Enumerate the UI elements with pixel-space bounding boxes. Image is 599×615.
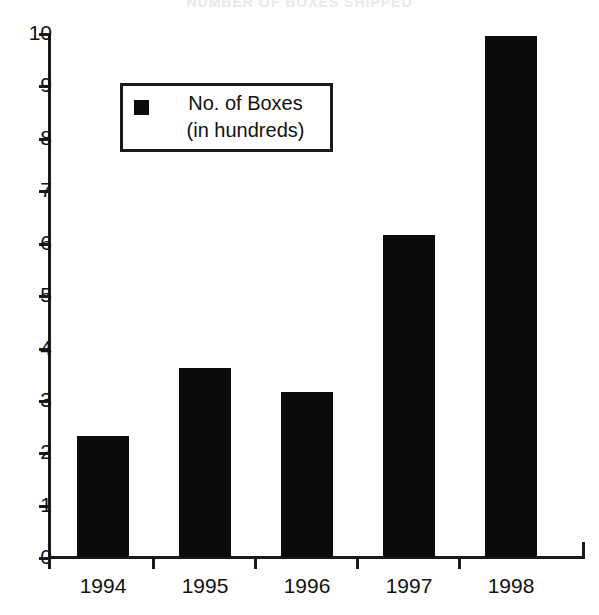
bar-1997 — [383, 235, 435, 557]
bar-chart-figure: NUMBER OF BOXES SHIPPED 10 9 8 7 6 5 — [0, 0, 599, 615]
legend-swatch-icon — [134, 100, 149, 115]
x-tick-mark — [48, 556, 51, 569]
bar-1996 — [281, 392, 333, 557]
legend-label-line-1: No. of Boxes — [163, 90, 328, 117]
y-tick-5: 5 — [0, 295, 52, 298]
y-tick-6: 6 — [0, 243, 52, 246]
x-tick-label-1998: 1998 — [460, 574, 562, 598]
x-tick-mark — [458, 556, 461, 569]
y-tick-label: 5 — [22, 284, 52, 305]
y-tick-label: 1 — [22, 494, 52, 515]
plot-area: 10 9 8 7 6 5 4 3 — [0, 0, 599, 615]
x-tick-mark — [152, 556, 155, 569]
legend-entry-label: No. of Boxes (in hundreds) — [163, 90, 328, 144]
bar-1998 — [485, 36, 537, 557]
y-tick-label: 8 — [22, 127, 52, 148]
y-tick-label: 10 — [22, 22, 52, 43]
y-tick-0: 0 — [0, 557, 52, 560]
y-tick-label: 2 — [22, 441, 52, 462]
y-tick-9: 9 — [0, 85, 52, 88]
x-tick-label-1997: 1997 — [358, 574, 460, 598]
y-tick-4: 4 — [0, 348, 52, 351]
bar-1995 — [179, 368, 231, 557]
legend-label-line-2: (in hundreds) — [163, 117, 328, 144]
y-tick-label: 7 — [22, 179, 52, 200]
y-tick-label: 9 — [22, 74, 52, 95]
x-tick-mark — [356, 556, 359, 569]
y-tick-3: 3 — [0, 400, 52, 403]
x-tick-mark — [254, 556, 257, 569]
x-tick-label-1996: 1996 — [256, 574, 358, 598]
y-tick-label: 4 — [22, 337, 52, 358]
bar-1994 — [77, 436, 129, 557]
y-tick-1: 1 — [0, 505, 52, 508]
y-tick-label: 3 — [22, 389, 52, 410]
x-tick-label-1994: 1994 — [52, 574, 154, 598]
y-tick-8: 8 — [0, 138, 52, 141]
legend: No. of Boxes (in hundreds) — [120, 83, 333, 152]
y-tick-10: 10 — [0, 33, 52, 36]
x-tick-label-1995: 1995 — [154, 574, 256, 598]
y-tick-label: 6 — [22, 232, 52, 253]
x-axis-end-cap — [582, 542, 585, 559]
y-tick-7: 7 — [0, 190, 52, 193]
y-tick-2: 2 — [0, 452, 52, 455]
